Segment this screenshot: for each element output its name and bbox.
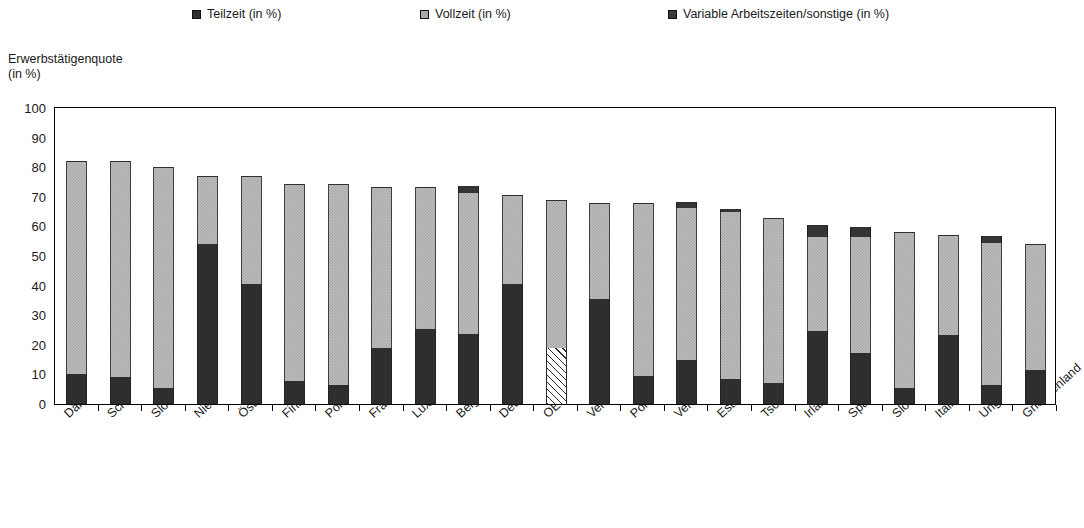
bar-segment-teilzeit <box>415 329 436 404</box>
legend-label-variable: Variable Arbeitszeiten/sonstige (in %) <box>683 8 889 21</box>
x-axis-tick-mark <box>620 405 621 411</box>
bar-segment-variable <box>458 186 479 193</box>
x-axis-tick-mark <box>533 405 534 411</box>
y-axis-tick-label: 90 <box>6 131 46 144</box>
x-axis-tick-mark <box>185 405 186 411</box>
bar-segment-teilzeit <box>66 374 87 404</box>
bar-segment-vollzeit <box>589 203 610 299</box>
bar-segment-vollzeit <box>241 176 262 284</box>
bar-segment-teilzeit <box>110 377 131 404</box>
bar-segment-teilzeit <box>850 353 871 404</box>
bar-segment-teilzeit <box>807 331 828 404</box>
y-axis-tick-label: 80 <box>6 161 46 174</box>
x-axis-tick-mark <box>751 405 752 411</box>
chart-legend: Teilzeit (in %) Vollzeit (in %) Variable… <box>0 5 1064 27</box>
bars-container <box>55 108 1055 404</box>
bar-segment-teilzeit <box>938 335 959 404</box>
x-axis-tick-mark <box>228 405 229 411</box>
bar-segment-teilzeit <box>284 381 305 404</box>
legend-swatch-variable-icon <box>668 10 677 19</box>
x-axis-tick-mark <box>141 405 142 411</box>
y-axis-tick-label: 50 <box>6 250 46 263</box>
y-axis-title: Erwerbstätigenquote (in %) <box>8 52 123 82</box>
bar-segment-vollzeit <box>546 201 567 348</box>
x-axis-tick-mark <box>838 405 839 411</box>
bar-segment-teilzeit <box>153 388 174 404</box>
bar-segment-teilzeit <box>676 360 697 404</box>
bar-segment-vollzeit <box>371 187 392 348</box>
x-axis-tick-mark <box>272 405 273 411</box>
bar-segment-vollzeit <box>633 203 654 376</box>
bar-segment-variable <box>676 202 697 208</box>
x-axis-tick-mark <box>969 405 970 411</box>
bar-segment-vollzeit <box>720 212 741 380</box>
bar-segment-teilzeit <box>981 385 1002 404</box>
legend-swatch-teilzeit-icon <box>192 10 201 19</box>
bar-segment-vollzeit <box>807 237 828 332</box>
bar-segment-vollzeit <box>153 167 174 388</box>
bar-segment-teilzeit <box>546 348 567 404</box>
bar-segment-teilzeit <box>633 376 654 404</box>
bar-segment-variable <box>546 200 567 201</box>
bar-segment-vollzeit <box>66 161 87 374</box>
bar-segment-teilzeit <box>197 244 218 404</box>
bar-segment-teilzeit <box>371 348 392 404</box>
x-axis-tick-mark <box>925 405 926 411</box>
bar-segment-teilzeit <box>458 334 479 404</box>
legend-swatch-vollzeit-icon <box>420 10 429 19</box>
bar-segment-teilzeit <box>241 284 262 404</box>
bar-segment-vollzeit <box>938 235 959 336</box>
x-axis-tick-mark <box>795 405 796 411</box>
bar-segment-variable <box>720 209 741 212</box>
legend-item-teilzeit: Teilzeit (in %) <box>192 8 281 21</box>
y-axis-tick-label: 40 <box>6 279 46 292</box>
y-axis-tick-label: 60 <box>6 220 46 233</box>
x-axis-tick-mark <box>98 405 99 411</box>
x-axis-tick-mark <box>1056 405 1057 411</box>
x-axis-tick-mark <box>403 405 404 411</box>
bar-segment-vollzeit <box>415 187 436 328</box>
bar-segment-variable <box>850 227 871 236</box>
y-axis-tick-label: 30 <box>6 309 46 322</box>
x-axis-tick-mark <box>707 405 708 411</box>
x-axis-tick-mark <box>577 405 578 411</box>
x-axis-tick-mark <box>882 405 883 411</box>
bar-segment-vollzeit <box>284 184 305 381</box>
bar-segment-teilzeit <box>894 388 915 404</box>
bar-segment-variable <box>807 225 828 237</box>
legend-item-vollzeit: Vollzeit (in %) <box>420 8 511 21</box>
bar-segment-vollzeit <box>197 176 218 244</box>
y-axis-tick-label: 0 <box>6 398 46 411</box>
bar-segment-teilzeit <box>502 284 523 404</box>
legend-label-vollzeit: Vollzeit (in %) <box>435 8 511 21</box>
bar-segment-teilzeit <box>720 379 741 404</box>
x-axis-tick-mark <box>446 405 447 411</box>
bar-segment-vollzeit <box>894 232 915 388</box>
plot-area <box>54 107 1056 405</box>
y-axis-tick-label: 70 <box>6 190 46 203</box>
bar-segment-vollzeit <box>850 237 871 353</box>
bar-segment-vollzeit <box>1025 244 1046 370</box>
bar-segment-vollzeit <box>458 193 479 334</box>
bar-segment-variable <box>981 236 1002 243</box>
bar-segment-teilzeit <box>328 385 349 404</box>
bar-segment-teilzeit <box>1025 370 1046 404</box>
x-axis-tick-mark <box>359 405 360 411</box>
bar-segment-vollzeit <box>763 218 784 382</box>
bar-segment-teilzeit <box>589 299 610 404</box>
y-axis-tick-label: 20 <box>6 338 46 351</box>
bar-segment-vollzeit <box>676 208 697 360</box>
x-axis-tick-mark <box>664 405 665 411</box>
legend-item-variable: Variable Arbeitszeiten/sonstige (in %) <box>668 8 889 21</box>
bar-segment-vollzeit <box>110 161 131 376</box>
bar-segment-vollzeit <box>981 243 1002 385</box>
y-axis-tick-label: 100 <box>6 102 46 115</box>
x-axis-tick-mark <box>315 405 316 411</box>
bar-segment-vollzeit <box>502 195 523 284</box>
x-axis-tick-mark <box>1012 405 1013 411</box>
legend-label-teilzeit: Teilzeit (in %) <box>207 8 281 21</box>
bar-segment-vollzeit <box>328 184 349 385</box>
x-axis-tick-mark <box>490 405 491 411</box>
y-axis-tick-label: 10 <box>6 368 46 381</box>
bar-segment-teilzeit <box>763 383 784 404</box>
